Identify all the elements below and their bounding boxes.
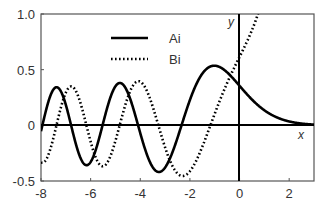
legend-ai-label: Ai (169, 31, 181, 46)
airy-function-chart: -0.500.51.0 -8-6-4-202 y x Ai Bi (0, 0, 328, 206)
series-ai-line (41, 66, 314, 172)
y-tick-label: 0.5 (17, 63, 35, 78)
series-bi-line (41, 0, 314, 176)
legend: Ai Bi (111, 31, 181, 67)
x-tick-label: -4 (134, 186, 146, 201)
y-tick-labels: -0.500.51.0 (13, 7, 35, 189)
x-tick-label: 2 (286, 186, 293, 201)
x-tick-label: -8 (35, 186, 47, 201)
y-axis-label: y (227, 15, 235, 29)
x-tick-label: 0 (236, 186, 243, 201)
legend-bi-label: Bi (169, 52, 181, 67)
y-tick-label: 1.0 (17, 7, 35, 22)
x-tick-labels: -8-6-4-202 (35, 186, 293, 201)
x-axis-label: x (297, 128, 305, 142)
axis-ticks (41, 14, 289, 181)
y-tick-label: 0 (28, 118, 35, 133)
y-tick-label: -0.5 (13, 174, 35, 189)
x-tick-label: -2 (184, 186, 196, 201)
x-tick-label: -6 (85, 186, 97, 201)
